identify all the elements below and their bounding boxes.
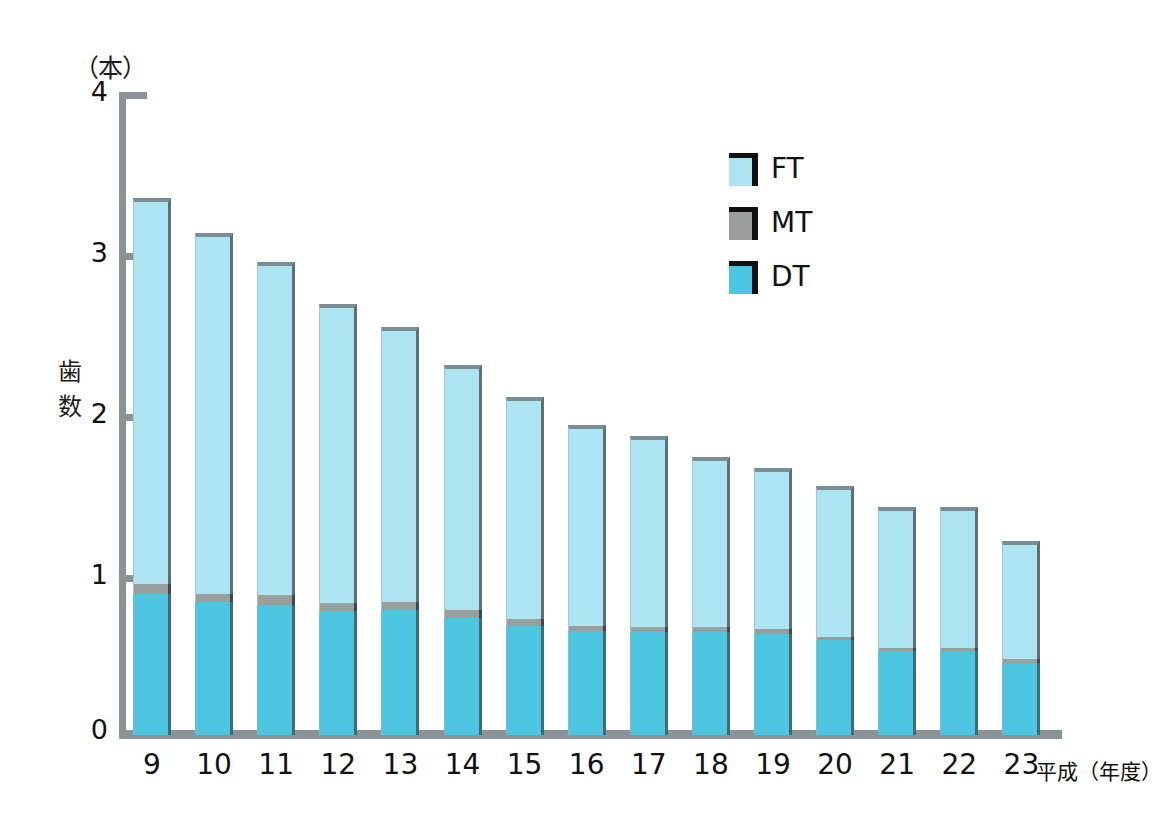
bar-segment-dt-13 bbox=[381, 610, 419, 735]
bar-segment-dt-15 bbox=[506, 626, 544, 735]
bar-year-23 bbox=[1002, 541, 1040, 735]
bar-segment-dt-18 bbox=[692, 632, 730, 735]
x-axis-label-18: 18 bbox=[676, 748, 746, 781]
y-tick-label-0: 0 bbox=[68, 714, 108, 745]
x-axis-label-19: 19 bbox=[738, 748, 808, 781]
bar-segment-dt-14 bbox=[444, 618, 482, 735]
bar-year-15 bbox=[506, 397, 544, 735]
bar-year-11 bbox=[257, 262, 295, 735]
bar-segment-dt-16 bbox=[568, 631, 606, 735]
bar-segment-mt-12 bbox=[319, 603, 357, 611]
bar-segment-ft-20 bbox=[816, 486, 854, 637]
bar-segment-dt-22 bbox=[940, 651, 978, 735]
bar-segment-ft-18 bbox=[692, 457, 730, 627]
bar-segment-dt-17 bbox=[630, 632, 668, 735]
bar-segment-dt-11 bbox=[257, 605, 295, 735]
bar-segment-dt-23 bbox=[1002, 663, 1040, 735]
bar-segment-ft-13 bbox=[381, 327, 419, 602]
bar-year-17 bbox=[630, 436, 668, 735]
bar-year-13 bbox=[381, 327, 419, 735]
dmf-stacked-bar-chart: （本） 4 3 2 1 0 歯 数 9101112131415161718192… bbox=[0, 0, 1166, 814]
x-axis-label-20: 20 bbox=[800, 748, 870, 781]
bar-year-12 bbox=[319, 304, 357, 735]
bar-year-21 bbox=[878, 507, 916, 735]
bar-year-9 bbox=[133, 198, 171, 735]
bar-year-22 bbox=[940, 507, 978, 735]
bar-segment-dt-21 bbox=[878, 651, 916, 735]
legend-label-dt: DT bbox=[771, 263, 810, 291]
bar-segment-mt-11 bbox=[257, 595, 295, 605]
x-axis-label-15: 15 bbox=[490, 748, 560, 781]
bar-segment-ft-22 bbox=[940, 507, 978, 648]
x-axis-label-17: 17 bbox=[614, 748, 684, 781]
legend-swatch-mt-icon bbox=[729, 207, 758, 240]
bar-segment-dt-19 bbox=[754, 634, 792, 735]
bar-segment-dt-10 bbox=[195, 602, 233, 735]
legend-item-dt: DT bbox=[729, 250, 812, 304]
y-axis-title-char-2: 数 bbox=[54, 390, 86, 425]
x-axis-label-9: 9 bbox=[117, 748, 187, 781]
bar-segment-mt-10 bbox=[195, 594, 233, 602]
bar-year-20 bbox=[816, 486, 854, 735]
x-axis-era-note: 平成（年度） bbox=[1036, 755, 1162, 785]
legend: FTMTDT bbox=[729, 142, 812, 304]
y-tick-label-1: 1 bbox=[68, 559, 108, 590]
bar-segment-mt-9 bbox=[133, 584, 171, 594]
bar-segment-ft-23 bbox=[1002, 541, 1040, 660]
x-axis-label-11: 11 bbox=[241, 748, 311, 781]
bar-year-14 bbox=[444, 365, 482, 735]
y-tick-mark-4 bbox=[119, 92, 136, 99]
x-axis-label-22: 22 bbox=[924, 748, 994, 781]
legend-item-ft: FT bbox=[729, 142, 812, 196]
x-axis-label-21: 21 bbox=[862, 748, 932, 781]
bar-segment-ft-14 bbox=[444, 365, 482, 609]
bar-year-10 bbox=[195, 233, 233, 735]
bar-segment-ft-19 bbox=[754, 468, 792, 629]
x-axis-label-16: 16 bbox=[552, 748, 622, 781]
legend-swatch-ft-icon bbox=[729, 153, 758, 186]
bar-segment-dt-9 bbox=[133, 594, 171, 735]
bar-segment-ft-21 bbox=[878, 507, 916, 648]
y-axis-title-char-1: 歯 bbox=[54, 355, 86, 390]
y-tick-label-4: 4 bbox=[68, 76, 108, 107]
bar-year-16 bbox=[568, 425, 606, 735]
legend-label-ft: FT bbox=[771, 155, 804, 183]
legend-swatch-dt-icon bbox=[729, 261, 758, 294]
legend-label-mt: MT bbox=[771, 209, 812, 237]
bar-segment-ft-10 bbox=[195, 233, 233, 593]
bar-segment-dt-20 bbox=[816, 640, 854, 735]
bar-year-19 bbox=[754, 468, 792, 735]
bar-segment-mt-13 bbox=[381, 602, 419, 610]
x-axis-label-12: 12 bbox=[303, 748, 373, 781]
y-axis-title: 歯 数 bbox=[54, 355, 86, 425]
bar-segment-ft-12 bbox=[319, 304, 357, 603]
legend-item-mt: MT bbox=[729, 196, 812, 250]
bar-segment-dt-12 bbox=[319, 611, 357, 735]
x-axis-label-14: 14 bbox=[428, 748, 498, 781]
bar-segment-ft-16 bbox=[568, 425, 606, 626]
y-tick-label-3: 3 bbox=[68, 237, 108, 268]
bar-segment-ft-17 bbox=[630, 436, 668, 627]
bar-segment-mt-14 bbox=[444, 610, 482, 618]
x-axis-label-13: 13 bbox=[365, 748, 435, 781]
bar-segment-ft-9 bbox=[133, 198, 171, 584]
x-axis-label-10: 10 bbox=[179, 748, 249, 781]
bar-segment-ft-11 bbox=[257, 262, 295, 595]
bar-year-18 bbox=[692, 457, 730, 735]
bar-segment-ft-15 bbox=[506, 397, 544, 619]
